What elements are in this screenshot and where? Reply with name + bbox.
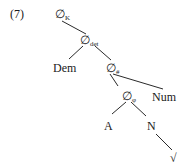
edge-phi-n [131,102,146,116]
node-subscript: K [65,14,70,22]
node-subscript: det [90,40,99,48]
tree-edges [0,0,190,167]
node-root: √ [170,152,177,164]
node-a: A [104,120,113,132]
node-n: N [147,120,156,132]
node-subscript: φ [132,96,136,104]
node-dem: Dem [53,62,76,74]
edge-hash-num [113,74,163,89]
node-num: Num [152,91,176,103]
node-subscript: # [116,68,120,76]
node-null-k: ∅K [55,8,70,22]
null-symbol: ∅ [122,89,132,103]
example-number: (7) [10,8,24,20]
node-null-hash: ∅# [106,62,120,76]
null-symbol: ∅ [80,33,90,47]
syntax-tree-diagram: (7) ∅K ∅det Dem ∅# Num ∅φ A N √ [0,0,190,167]
null-symbol: ∅ [55,7,65,21]
edge-det-hash [95,46,111,60]
null-symbol: ∅ [106,61,116,75]
node-null-phi: ∅φ [122,90,136,104]
node-null-det: ∅det [80,34,99,48]
edge-n-root [156,134,172,150]
